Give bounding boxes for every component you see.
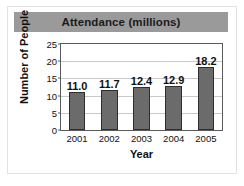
x-tick-label: 2003 [131, 133, 152, 144]
y-tick-mark [58, 130, 61, 131]
bar: 12.4 [133, 87, 150, 130]
y-tick-mark [58, 61, 61, 62]
y-tick-label: 25 [46, 39, 57, 50]
y-tick-mark [58, 112, 61, 113]
bar-value-label: 11.7 [99, 78, 120, 90]
plot-area: 051015202511.0200111.7200212.4200312.920… [60, 43, 223, 131]
bar: 11.0 [69, 92, 86, 130]
y-tick-mark [58, 95, 61, 96]
x-tick-label: 2004 [163, 133, 184, 144]
y-tick-label: 5 [52, 107, 57, 118]
bar: 18.2 [198, 67, 215, 130]
bar-value-label: 18.2 [195, 55, 216, 67]
bar-value-label: 12.4 [131, 75, 152, 87]
chart-title-band: Attendance (millions) [14, 12, 228, 32]
x-tick-label: 2002 [99, 133, 120, 144]
y-tick-mark [58, 78, 61, 79]
chart-title: Attendance (millions) [61, 16, 180, 28]
x-axis-label: Year [60, 148, 223, 160]
y-axis-label: Number of People [14, 9, 34, 105]
bar-value-label: 12.9 [163, 74, 184, 86]
bar: 11.7 [101, 90, 118, 130]
y-tick-label: 0 [52, 125, 57, 136]
bar: 12.9 [165, 86, 182, 130]
x-tick-label: 2001 [67, 133, 88, 144]
y-tick-label: 15 [46, 73, 57, 84]
y-tick-label: 20 [46, 56, 57, 67]
y-tick-mark [58, 44, 61, 45]
y-tick-label: 10 [46, 90, 57, 101]
x-tick-label: 2005 [195, 133, 216, 144]
bar-value-label: 11.0 [67, 80, 88, 92]
chart-figure: Attendance (millions) Number of People 0… [0, 0, 244, 186]
